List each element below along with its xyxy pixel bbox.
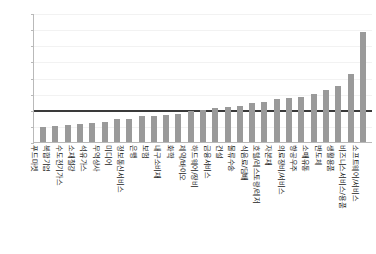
x-axis-category-label: 소재철강 xyxy=(66,145,75,172)
bar-slot xyxy=(308,14,320,142)
x-axis-category-label: 제약/바이오 xyxy=(177,145,186,181)
x-axis-category-label: 보험 xyxy=(140,145,149,159)
bar xyxy=(261,102,267,142)
x-axis-category-label: 금융서비스 xyxy=(202,145,211,179)
x-axis-category-label: 수도전기가스 xyxy=(54,145,63,186)
bar-slot xyxy=(283,14,295,142)
bar-slot xyxy=(344,14,356,142)
bar xyxy=(348,74,354,142)
bar xyxy=(77,124,83,142)
x-axis-category-label: 의료장비/서비스 xyxy=(276,145,285,195)
x-axis-category-label: 소매유통 xyxy=(300,145,309,172)
y-axis-tick-mark xyxy=(31,62,34,63)
bar-slot xyxy=(185,14,197,142)
bar xyxy=(274,99,280,142)
x-axis-category-label: 복합기업 xyxy=(41,145,50,172)
bar-slot xyxy=(172,14,184,142)
bar-slot xyxy=(160,14,172,142)
bar-slot xyxy=(221,14,233,142)
y-axis-tick-mark xyxy=(31,30,34,31)
bar-slot xyxy=(74,14,86,142)
x-axis-category-label: 호텔/레스토랑/레저 xyxy=(251,145,260,204)
bar xyxy=(286,98,292,143)
bar-slot xyxy=(258,14,270,142)
bar xyxy=(188,111,194,142)
x-axis-category-label: 푸드마켓 xyxy=(29,145,38,172)
bar xyxy=(89,123,95,142)
x-axis-category-label: 소프트웨어/서비스 xyxy=(350,145,359,202)
bar xyxy=(237,106,243,142)
bar xyxy=(65,125,71,142)
bar xyxy=(126,119,132,142)
bar xyxy=(40,127,46,142)
bar-slot xyxy=(148,14,160,142)
bar-slot xyxy=(197,14,209,142)
bar-slot xyxy=(320,14,332,142)
x-label-slot: 소프트웨어/서비스 xyxy=(357,145,369,253)
y-axis-tick-mark xyxy=(31,143,34,144)
x-axis-category-label: 반도체 xyxy=(313,145,322,165)
x-label-slot: 은행 xyxy=(135,145,147,253)
x-axis-category-label: 하드웨어/장비 xyxy=(189,145,198,188)
x-axis-category-label: 항공우주 xyxy=(288,145,297,172)
y-axis-tick-mark xyxy=(31,14,34,15)
bar-chart: 4.03.53.02.52.01.51.00.50.0 푸드마켓복합기업수도전기… xyxy=(0,0,376,254)
y-axis-tick-mark xyxy=(31,95,34,96)
bar-slot xyxy=(357,14,369,142)
x-label-slot: 내구소비재 xyxy=(159,145,171,253)
y-axis-tick-mark xyxy=(31,46,34,47)
x-label-slot: 금융서비스 xyxy=(209,145,221,253)
bar-slot xyxy=(295,14,307,142)
bar xyxy=(102,122,108,142)
x-axis-category-label: 석유가스 xyxy=(78,145,87,172)
x-axis-category-label: 건설 xyxy=(214,145,223,159)
bar-series xyxy=(34,14,372,142)
bar xyxy=(200,110,206,142)
bar xyxy=(360,32,366,142)
x-axis-category-label: 자본재 xyxy=(263,145,272,165)
bar xyxy=(249,103,255,142)
bar-slot xyxy=(111,14,123,142)
bar-slot xyxy=(123,14,135,142)
bar-slot xyxy=(49,14,61,142)
bar xyxy=(175,114,181,142)
bar xyxy=(225,107,231,142)
bar xyxy=(52,126,58,142)
x-label-slot: 정보통신서비스 xyxy=(122,145,134,253)
x-axis-category-label: 무역상사 xyxy=(91,145,100,172)
plot-area xyxy=(33,14,372,143)
bar xyxy=(311,94,317,142)
y-axis-tick-mark xyxy=(31,111,34,112)
bar xyxy=(151,116,157,142)
bar xyxy=(335,86,341,142)
x-axis-category-label: 은행 xyxy=(128,145,137,159)
x-axis-category-label: 물류수송 xyxy=(226,145,235,172)
x-axis-category-label: 식음료/담배 xyxy=(239,145,248,181)
x-axis-category-label: 화학 xyxy=(165,145,174,159)
y-axis-tick-mark xyxy=(31,79,34,80)
bar-slot xyxy=(246,14,258,142)
bar xyxy=(114,119,120,142)
bar-slot xyxy=(234,14,246,142)
bar-slot xyxy=(135,14,147,142)
x-axis-category-label: 생활용품 xyxy=(325,145,334,172)
x-axis-category-label: 미디어 xyxy=(103,145,112,165)
x-axis-category-labels: 푸드마켓복합기업수도전기가스소재철강석유가스무역상사미디어정보통신서비스은행보험… xyxy=(33,145,372,253)
bar xyxy=(323,90,329,142)
bar xyxy=(298,97,304,142)
bar xyxy=(139,116,145,142)
bar-slot xyxy=(209,14,221,142)
bar-slot xyxy=(271,14,283,142)
y-axis-tick-mark xyxy=(31,127,34,128)
x-axis-category-label: 비즈니스서비스/용품 xyxy=(337,145,346,208)
bar-slot xyxy=(98,14,110,142)
bar xyxy=(212,108,218,142)
x-axis-category-label: 내구소비재 xyxy=(152,145,161,179)
bar-slot xyxy=(86,14,98,142)
bar-slot xyxy=(332,14,344,142)
x-axis-category-label: 정보통신서비스 xyxy=(115,145,124,193)
bar xyxy=(163,115,169,142)
bar-slot xyxy=(62,14,74,142)
bar-slot xyxy=(37,14,49,142)
